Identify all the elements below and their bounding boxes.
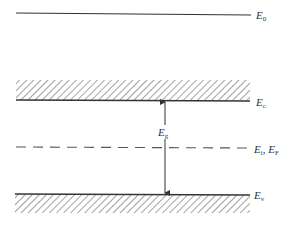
- fermi-level-dashed-line: [16, 147, 250, 148]
- vacuum-level-label: E0: [255, 9, 267, 23]
- conduction-band-label: Ec: [255, 96, 266, 110]
- band-diagram: E0 Ec Ei, EF Ev Eg: [0, 0, 295, 227]
- valence-band-edge-line: [15, 194, 250, 195]
- valence-band-hatch: [15, 195, 250, 213]
- conduction-band-edge-line: [16, 100, 250, 101]
- conduction-band-hatch: [16, 80, 250, 100]
- valence-band-label: Ev: [253, 189, 265, 203]
- fermi-level-label: Ei, EF: [253, 143, 279, 157]
- vacuum-level-line: [16, 13, 251, 15]
